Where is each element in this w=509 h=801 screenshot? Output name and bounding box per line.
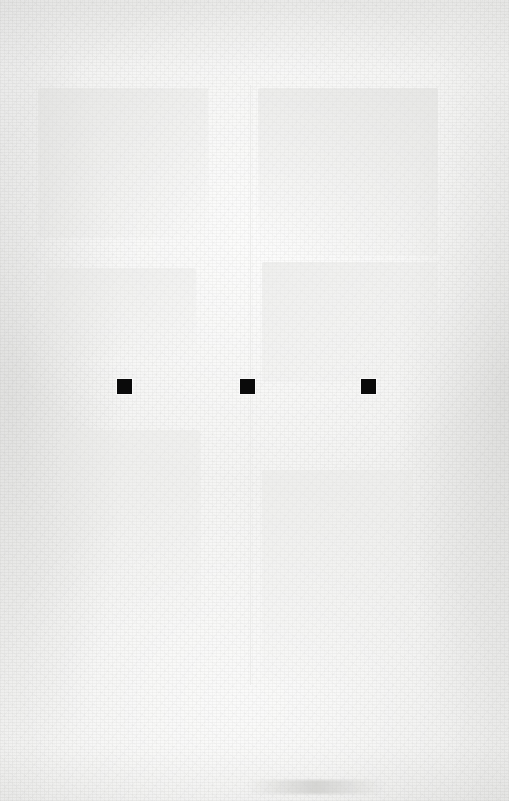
paper-grain-texture bbox=[0, 0, 509, 801]
black-square-mark-2 bbox=[240, 379, 255, 394]
black-square-mark-3 bbox=[361, 379, 376, 394]
black-square-mark-1 bbox=[117, 379, 132, 394]
scanned-page bbox=[0, 0, 509, 801]
